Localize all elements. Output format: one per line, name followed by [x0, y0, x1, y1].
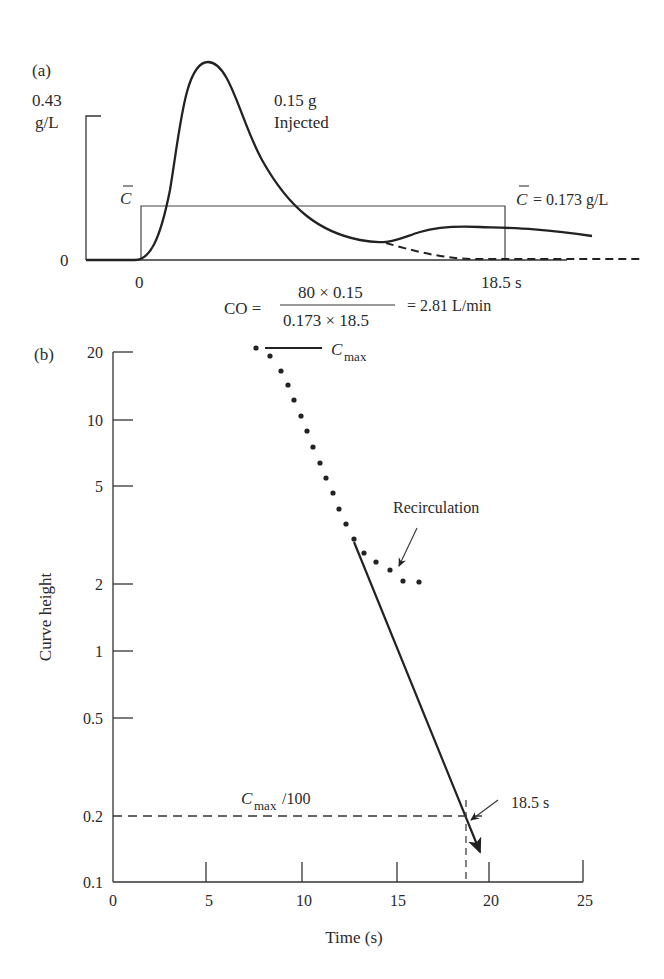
y-axis-bracket [86, 116, 101, 260]
y-axis-label: Curve height [36, 573, 55, 662]
cmax100-sub: max [254, 798, 277, 813]
x-ticks [206, 860, 583, 882]
y-tick-1: 1 [95, 643, 103, 660]
y-tick-labels: 20 10 5 2 1 0.5 0.2 0.1 [83, 344, 103, 891]
extrapolated-curve [386, 243, 640, 259]
x-tick-20: 20 [483, 892, 499, 909]
c-bar-label-right: C [516, 190, 528, 209]
recirculation-label: Recirculation [393, 499, 479, 516]
y-tick-5: 5 [95, 478, 103, 495]
formula-denominator: 0.173 × 18.5 [283, 311, 369, 330]
y-tick-2: 2 [95, 576, 103, 593]
x-tick-25: 25 [577, 892, 593, 909]
dilution-curve [86, 62, 592, 260]
y-ticks [113, 352, 133, 718]
panel-a: (a) 0.43 g/L 0 0 C C = 0.173 g/L 0.15 g … [32, 61, 640, 330]
panel-b: (b) 20 10 5 2 1 0.5 0.2 0.1 [34, 340, 593, 947]
data-points [253, 345, 421, 584]
y-tick-10: 10 [87, 412, 103, 429]
y-tick-20: 20 [87, 344, 103, 361]
c-bar-label: C [120, 189, 132, 208]
panel-b-label: (b) [34, 345, 54, 364]
x-tick-10: 10 [296, 892, 312, 909]
x-zero-label: 0 [135, 273, 144, 292]
y-tick-0.2: 0.2 [83, 808, 103, 825]
formula-lhs: CO = [224, 299, 261, 318]
c-bar-value: = 0.173 g/L [533, 191, 608, 209]
x-tick-15: 15 [390, 892, 406, 909]
formula-numerator: 80 × 0.15 [298, 283, 363, 302]
cmax-sub: max [344, 349, 367, 364]
t185-label: 18.5 s [511, 794, 549, 811]
mean-concentration-rect [141, 206, 505, 260]
cmax100-label: C [241, 789, 253, 808]
recirculation-arrow [399, 528, 417, 566]
figure: (a) 0.43 g/L 0 0 C C = 0.173 g/L 0.15 g … [0, 0, 664, 979]
y-zero-label: 0 [60, 251, 69, 270]
x-axis-label: Time (s) [325, 928, 382, 947]
x-tick-0: 0 [109, 892, 117, 909]
y-max-unit: g/L [35, 113, 59, 132]
extrapolation-line [354, 542, 480, 852]
x-end-label: 18.5 s [481, 273, 522, 292]
x-tick-5: 5 [205, 892, 213, 909]
y-tick-0.1: 0.1 [83, 874, 103, 891]
injected-label: Injected [274, 113, 329, 132]
panel-a-label: (a) [32, 61, 51, 80]
cmax100-suffix: /100 [282, 790, 310, 807]
y-max-label: 0.43 [32, 91, 62, 110]
cmax-label: C [331, 340, 343, 359]
t185-arrow [471, 800, 498, 820]
x-tick-labels: 0 5 10 15 20 25 [109, 892, 593, 909]
injected-amount: 0.15 g [274, 91, 317, 110]
formula-result: = 2.81 L/min [407, 297, 491, 314]
y-tick-0.5: 0.5 [83, 710, 103, 727]
